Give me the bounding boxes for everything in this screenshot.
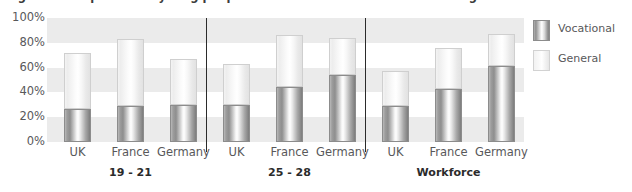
y-axis-tick-label: 80% — [0, 37, 45, 49]
legend-label-general: General — [558, 53, 601, 65]
x-axis-category-label: Germany — [472, 146, 532, 158]
bar-segment-vocational[interactable] — [382, 106, 409, 142]
bar-column[interactable] — [488, 34, 515, 142]
legend-label-vocational: Vocational — [558, 23, 615, 35]
bar-segment-general[interactable] — [117, 39, 144, 106]
y-axis-tick-label: 60% — [0, 62, 45, 74]
legend-swatch-vocational — [533, 20, 550, 41]
bar-top-cap — [382, 71, 409, 75]
bar-segment-general[interactable] — [382, 71, 409, 106]
bar-segment-vocational[interactable] — [117, 106, 144, 142]
plot-area — [47, 18, 524, 142]
bar-segment-general[interactable] — [170, 59, 197, 105]
bar-column[interactable] — [329, 38, 356, 142]
x-axis-category-label: UK — [366, 146, 426, 158]
bar-top-cap — [117, 39, 144, 43]
bar-top-cap — [170, 59, 197, 63]
bar-segment-vocational[interactable] — [329, 75, 356, 142]
bar-segment-general[interactable] — [329, 38, 356, 75]
bar-segment-general[interactable] — [435, 48, 462, 89]
bar-segment-vocational[interactable] — [64, 109, 91, 142]
x-axis-group-label: 19 - 21 — [61, 167, 201, 179]
bar-segment-vocational[interactable] — [170, 105, 197, 142]
bar-top-cap — [488, 34, 515, 38]
x-axis-category-label: France — [419, 146, 479, 158]
legend-item-vocational[interactable]: Vocational — [533, 18, 628, 48]
legend-item-general[interactable]: General — [533, 48, 628, 78]
bar-segment-general[interactable] — [276, 35, 303, 87]
y-axis-tick-label: 40% — [0, 86, 45, 98]
bar-top-cap — [223, 64, 250, 68]
x-axis-category-label: UK — [207, 146, 267, 158]
figure-title: Figure 3: Proportion of young people and… — [6, 0, 526, 3]
x-axis-group-label: Workforce — [379, 167, 519, 179]
bar-segment-general[interactable] — [223, 64, 250, 105]
y-axis-tick-label: 100% — [0, 12, 45, 24]
bar-segment-general[interactable] — [488, 34, 515, 66]
bar-segment-vocational[interactable] — [276, 87, 303, 142]
group-separator — [365, 18, 366, 152]
bar-top-cap — [329, 38, 356, 42]
y-axis-tick-label: 0% — [0, 136, 45, 148]
x-axis-group-label: 25 - 28 — [220, 167, 360, 179]
x-axis-category-label: UK — [48, 146, 108, 158]
y-axis: 100%80%60%40%20%0% — [0, 18, 45, 142]
bar-column[interactable] — [64, 53, 91, 142]
bar-segment-vocational[interactable] — [488, 66, 515, 142]
bar-top-cap — [64, 53, 91, 57]
bar-segment-general[interactable] — [64, 53, 91, 109]
group-separator — [206, 18, 207, 152]
bar-column[interactable] — [435, 48, 462, 142]
y-axis-tick-label: 20% — [0, 111, 45, 123]
chart-figure: Figure 3: Proportion of young people and… — [0, 0, 632, 192]
bar-top-cap — [276, 35, 303, 39]
bar-top-cap — [435, 48, 462, 52]
x-axis-category-label: Germany — [154, 146, 214, 158]
bar-column[interactable] — [223, 64, 250, 142]
x-axis-category-label: France — [101, 146, 161, 158]
bar-column[interactable] — [170, 59, 197, 142]
bar-column[interactable] — [382, 71, 409, 142]
x-axis-category-label: France — [260, 146, 320, 158]
bar-column[interactable] — [117, 39, 144, 142]
bar-segment-vocational[interactable] — [223, 105, 250, 142]
legend-swatch-general — [533, 50, 550, 71]
bar-column[interactable] — [276, 35, 303, 142]
bar-segment-vocational[interactable] — [435, 89, 462, 142]
x-axis-category-label: Germany — [313, 146, 373, 158]
chart-legend: VocationalGeneral — [533, 18, 628, 78]
